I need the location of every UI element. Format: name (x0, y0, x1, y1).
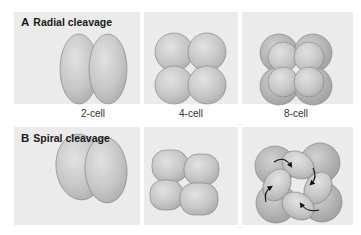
row-a-title: ARadial cleavage (21, 16, 112, 28)
row-b-letter: B (21, 132, 29, 144)
caption-8cell: 8-cell (246, 108, 346, 119)
radial-8cell-embryo (260, 34, 332, 105)
spiral-4cell-embryo (150, 150, 219, 215)
radial-4cell-embryo (155, 33, 226, 104)
row-b-title: BSpiral cleavage (21, 132, 110, 144)
row-a-label: Radial cleavage (33, 16, 112, 28)
caption-2cell: 2-cell (43, 108, 143, 119)
radial-2cell-embryo (60, 34, 127, 104)
caption-4cell: 4-cell (141, 108, 241, 119)
row-a-letter: A (21, 16, 29, 28)
row-b-label: Spiral cleavage (33, 132, 109, 144)
spiral-8cell-embryo (255, 143, 342, 226)
